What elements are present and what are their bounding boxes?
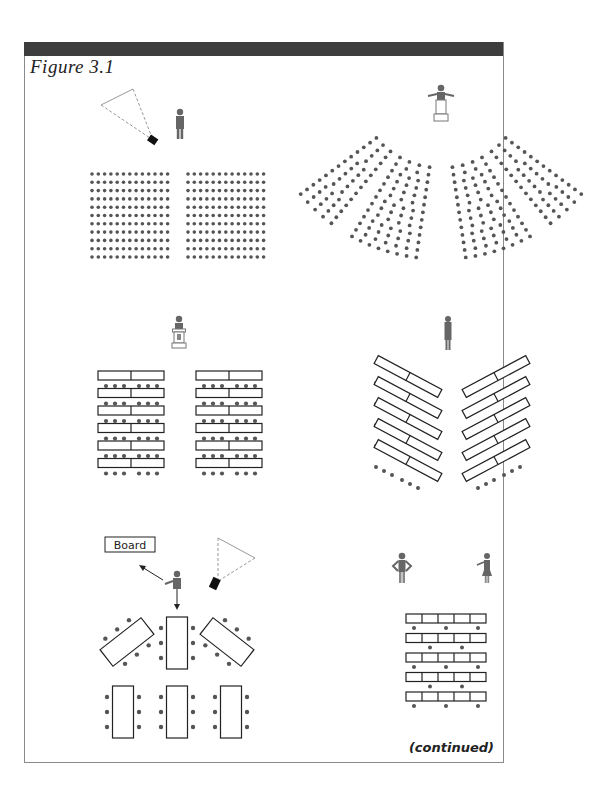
panel-theater (101, 89, 184, 145)
panel-chevron (445, 316, 452, 350)
panel-conference: Board (105, 537, 255, 610)
board-label: Board (114, 539, 146, 552)
panel-auditorium (428, 85, 454, 121)
continued-label: (continued) (409, 740, 494, 755)
panel-classroom (172, 316, 186, 348)
seating-diagrams: Board (0, 0, 616, 798)
panel-benches (393, 553, 492, 583)
